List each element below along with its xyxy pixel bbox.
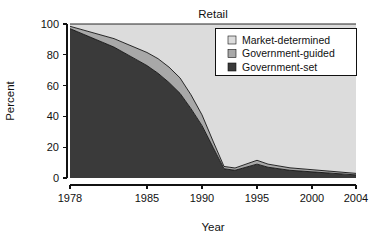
legend-swatch <box>228 63 236 71</box>
legend-swatch <box>228 50 236 58</box>
chart-figure: 020406080100 197819851990199520002004 Re… <box>0 0 375 237</box>
x-tick-label: 1985 <box>135 192 159 204</box>
legend-item: Market-determined <box>228 34 330 46</box>
chart-legend: Market-determinedGovernment-guidedGovern… <box>216 29 357 76</box>
x-tick-label: 1995 <box>245 192 269 204</box>
legend-item: Government-set <box>228 61 317 73</box>
retail-area-chart: 020406080100 197819851990199520002004 Re… <box>0 0 375 237</box>
x-axis-title: Year <box>201 221 224 233</box>
legend-label: Market-determined <box>242 34 330 46</box>
y-tick-label: 100 <box>41 18 59 30</box>
x-tick-label: 2000 <box>300 192 324 204</box>
chart-title: Retail <box>198 8 227 20</box>
legend-label: Government-set <box>242 61 317 73</box>
y-tick-label: 80 <box>47 49 59 61</box>
x-tick-label: 1990 <box>190 192 214 204</box>
y-tick-label: 40 <box>47 110 59 122</box>
x-tick-label: 1978 <box>58 192 82 204</box>
y-tick-label: 60 <box>47 80 59 92</box>
y-tick-label: 20 <box>47 141 59 153</box>
legend-swatch <box>228 36 236 44</box>
x-tick-label: 2004 <box>344 192 368 204</box>
y-tick-label: 0 <box>53 172 59 184</box>
legend-item: Government-guided <box>228 47 335 59</box>
y-axis-title: Percent <box>4 80 16 120</box>
legend-label: Government-guided <box>242 47 335 59</box>
